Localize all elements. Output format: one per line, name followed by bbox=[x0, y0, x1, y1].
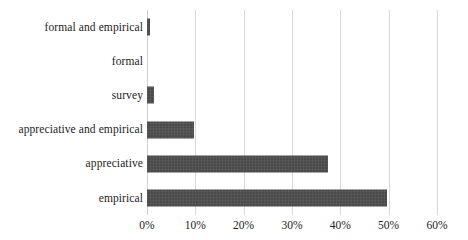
bar-track bbox=[147, 147, 437, 181]
x-tick-label-30: 30% bbox=[281, 219, 302, 232]
bar-row: appreciative bbox=[0, 147, 468, 181]
category-label-empirical: empirical bbox=[0, 192, 147, 205]
category-label-appreciative: appreciative bbox=[0, 157, 147, 170]
bar-appreciative bbox=[147, 155, 328, 172]
x-tick-label-20: 20% bbox=[233, 219, 254, 232]
x-tick-label-40: 40% bbox=[330, 219, 351, 232]
bar-formal-and-empirical bbox=[147, 19, 150, 36]
category-label-survey: survey bbox=[0, 89, 147, 102]
bar-track bbox=[147, 78, 437, 112]
bar-rows: formal and empirical formal survey appre… bbox=[0, 10, 468, 215]
bar-track bbox=[147, 44, 437, 78]
bar-empirical bbox=[147, 189, 387, 206]
bar-chart: formal and empirical formal survey appre… bbox=[0, 0, 468, 240]
x-axis: 0% 10% 20% 30% 40% 50% 60% bbox=[147, 215, 437, 240]
category-label-appreciative-and-empirical: appreciative and empirical bbox=[0, 123, 147, 136]
bar-row: formal bbox=[0, 44, 468, 78]
bar-track bbox=[147, 181, 437, 215]
x-tick-label-10: 10% bbox=[185, 219, 206, 232]
bar-row: formal and empirical bbox=[0, 10, 468, 44]
bar-survey bbox=[147, 87, 154, 104]
bar-row: appreciative and empirical bbox=[0, 113, 468, 147]
x-tick-label-60: 60% bbox=[426, 219, 447, 232]
bar-track bbox=[147, 10, 437, 44]
x-tick-label-50: 50% bbox=[378, 219, 399, 232]
category-label-formal-and-empirical: formal and empirical bbox=[0, 21, 147, 34]
category-label-formal: formal bbox=[0, 55, 147, 68]
bar-row: survey bbox=[0, 78, 468, 112]
bar-row: empirical bbox=[0, 181, 468, 215]
bar-track bbox=[147, 113, 437, 147]
bar-appreciative-and-empirical bbox=[147, 121, 194, 138]
x-tick-label-0: 0% bbox=[139, 219, 154, 232]
